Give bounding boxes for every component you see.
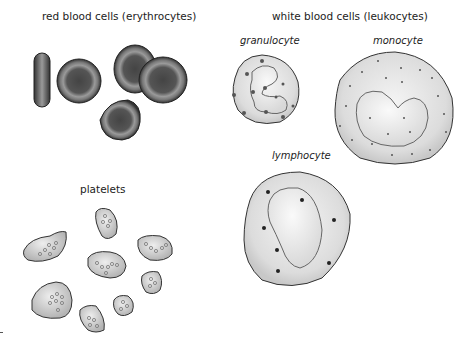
platelet	[96, 208, 118, 238]
platelet	[24, 232, 67, 262]
rbc-side-view	[34, 53, 50, 107]
rbc-cell	[57, 59, 101, 103]
platelet	[114, 296, 134, 316]
platelet	[138, 236, 173, 261]
platelet	[80, 306, 105, 333]
blood-cells-illustration	[0, 0, 462, 342]
platelet	[32, 282, 72, 318]
granulocyte-cell	[232, 55, 299, 124]
lymphocyte-cell	[244, 172, 350, 286]
red-blood-cells	[34, 45, 187, 140]
platelet	[142, 272, 162, 294]
stray-mark	[0, 332, 3, 333]
rbc-cell	[100, 100, 140, 140]
monocyte-cell	[335, 52, 453, 164]
rbc-cell	[139, 57, 187, 103]
platelets	[24, 208, 173, 332]
